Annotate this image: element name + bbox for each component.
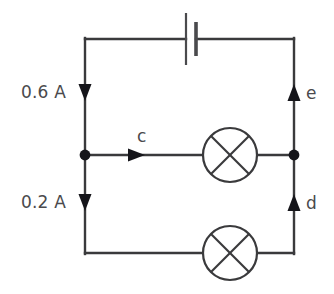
lamp-middle-symbol: [203, 128, 257, 182]
label-point-d: d: [306, 195, 317, 212]
current-arrow-top-right-icon: [288, 84, 301, 101]
junction-dot-right: [289, 150, 300, 161]
current-arrow-top-left-icon: [79, 84, 92, 101]
lamp-bottom-symbol: [203, 226, 257, 280]
circuit-diagram: 0.6 A 0.2 A c d e: [0, 0, 334, 294]
current-arrow-bottom-right-icon: [288, 194, 301, 211]
junction-dot-left: [80, 150, 91, 161]
circuit-schematic-svg: [0, 0, 334, 294]
current-arrow-middle-icon: [128, 149, 145, 162]
label-point-c: c: [137, 128, 146, 145]
label-point-e: e: [306, 85, 316, 102]
label-current-bottom: 0.2 A: [21, 194, 66, 211]
label-current-top: 0.6 A: [21, 84, 66, 101]
battery-symbol: [186, 13, 196, 65]
current-arrow-bottom-left-icon: [79, 194, 92, 211]
